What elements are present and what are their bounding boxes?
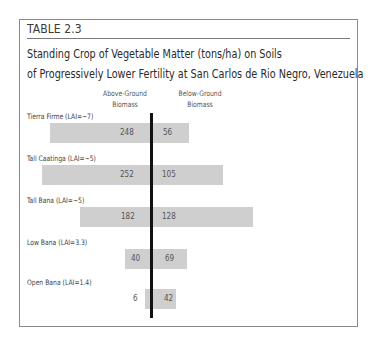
value-above: 182 — [121, 207, 135, 227]
header-rule — [27, 38, 350, 39]
bar-above-ground — [80, 207, 151, 227]
chart-title-line1: Standing Crop of Vegetable Matter (tons/… — [27, 46, 282, 61]
value-below: 42 — [164, 289, 173, 309]
table-number: TABLE 2.3 — [27, 22, 82, 36]
row-label: Tall Bana (LAI=~5) — [27, 196, 84, 205]
column-header-above-ground: Above-Ground Biomass — [98, 88, 152, 110]
row-label: Low Bana (LAI=3.3) — [27, 238, 87, 247]
column-header-line: Biomass — [173, 99, 227, 110]
value-below: 128 — [162, 207, 176, 227]
value-below: 56 — [163, 123, 172, 143]
chart-title-line2: of Progressively Lower Fertility at San … — [27, 66, 363, 81]
row-label: Tierra Firme (LAI=~7) — [27, 112, 93, 121]
value-above: 248 — [120, 123, 134, 143]
row-label: Tall Caatinga (LAI=~5) — [27, 154, 96, 163]
row-label: Open Bana (LAI=1.4) — [27, 278, 92, 287]
center-axis-line — [150, 113, 153, 318]
value-above: 252 — [120, 165, 134, 185]
column-header-line: Biomass — [98, 99, 152, 110]
value-below: 69 — [165, 249, 174, 269]
column-header-below-ground: Below-Ground Biomass — [173, 88, 227, 110]
value-above: 6 — [133, 289, 138, 309]
bar-above-ground — [50, 123, 151, 143]
column-header-line: Below-Ground — [173, 88, 227, 99]
value-below: 105 — [162, 165, 176, 185]
value-above: 40 — [131, 249, 140, 269]
column-header-line: Above-Ground — [98, 88, 152, 99]
bar-above-ground — [42, 165, 151, 185]
